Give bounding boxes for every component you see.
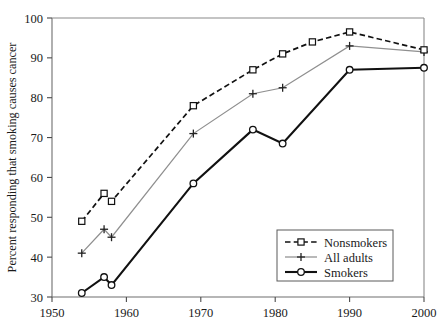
data-point-marker <box>108 198 114 204</box>
y-tick-label: 30 <box>31 291 44 305</box>
y-axis-title: Percent responding that smoking causes c… <box>5 43 19 273</box>
data-point-marker <box>346 67 353 74</box>
data-point-marker <box>190 180 197 187</box>
x-tick-label: 1950 <box>40 306 65 320</box>
data-point-marker <box>101 190 107 196</box>
y-tick-label: 50 <box>31 211 44 225</box>
data-point-marker <box>279 140 286 147</box>
chart-container: 3040506070809010019501960197019801990200… <box>0 0 444 336</box>
data-point-marker <box>250 126 257 133</box>
data-point-marker <box>79 218 85 224</box>
series-all-adults <box>78 42 428 257</box>
chart-legend: NonsmokersAll adultsSmokers <box>277 230 393 281</box>
x-tick-label: 1960 <box>114 306 139 320</box>
y-tick-label: 100 <box>24 12 43 26</box>
data-point-marker <box>280 51 286 57</box>
y-tick-label: 80 <box>31 91 44 105</box>
data-point-marker <box>78 290 85 297</box>
x-tick-label: 1990 <box>337 306 362 320</box>
data-point-marker <box>309 39 315 45</box>
y-tick-label: 70 <box>31 131 44 145</box>
x-tick-label: 1970 <box>188 306 213 320</box>
data-point-marker <box>101 274 108 281</box>
legend-label: Smokers <box>324 266 368 280</box>
data-point-marker <box>108 282 115 289</box>
x-tick-label: 2000 <box>412 306 437 320</box>
series-line <box>82 46 424 253</box>
line-chart: 3040506070809010019501960197019801990200… <box>0 0 444 336</box>
y-tick-label: 40 <box>31 251 44 265</box>
data-point-marker <box>298 269 305 276</box>
data-point-marker <box>190 103 196 109</box>
data-point-marker <box>250 67 256 73</box>
data-point-marker <box>347 29 353 35</box>
data-point-marker <box>421 65 428 72</box>
legend-label: Nonsmokers <box>324 236 387 250</box>
x-tick-label: 1980 <box>263 306 288 320</box>
data-point-marker <box>298 239 304 245</box>
legend-label: All adults <box>324 251 373 265</box>
data-point-marker <box>421 47 427 53</box>
y-tick-label: 60 <box>31 171 44 185</box>
y-tick-label: 90 <box>31 51 44 65</box>
